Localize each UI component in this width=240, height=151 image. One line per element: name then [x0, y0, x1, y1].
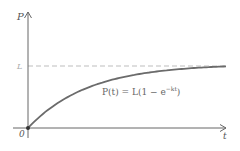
formula-close: ): [177, 87, 181, 97]
asymptote-label: L: [16, 62, 22, 71]
x-axis-label: t: [223, 131, 227, 141]
origin-point: [26, 126, 30, 130]
logistic-growth-chart: P L 0 t P(t) = L(1 − e−kt): [0, 0, 240, 151]
formula-base: P(t) = L(1 − e: [102, 87, 166, 97]
formula-exponent: −kt: [166, 85, 178, 92]
growth-curve: [28, 66, 226, 128]
formula-annotation: P(t) = L(1 − e−kt): [102, 85, 180, 97]
y-axis-label: P: [16, 11, 24, 22]
origin-label: 0: [19, 129, 25, 139]
